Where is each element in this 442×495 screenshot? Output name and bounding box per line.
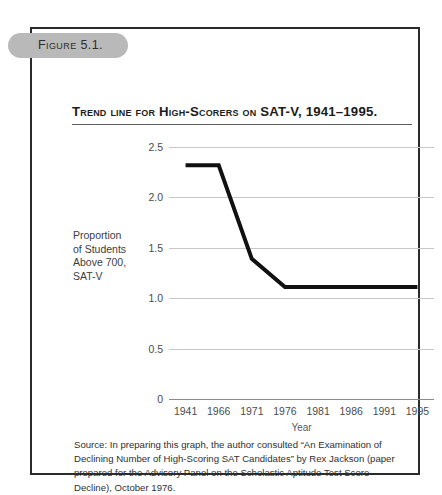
y-tick-label-0: 0 <box>157 393 163 405</box>
trend-line-series <box>169 147 434 399</box>
y-axis-title-line-4: SAT-V <box>73 270 165 284</box>
title-underline-rule <box>72 124 412 125</box>
trend-line-path <box>186 165 418 287</box>
figure-number-label: Figure 5.1. <box>38 38 103 52</box>
y-tick-label-1.5: 1.5 <box>148 242 163 254</box>
y-axis-title: Proportion of Students Above 700, SAT-V <box>73 229 165 283</box>
figure-frame: Trend line for High-Scorers on SAT-V, 19… <box>30 27 420 475</box>
y-tick-label-1.0: 1.0 <box>148 292 163 304</box>
x-tick-label-1976: 1976 <box>273 405 296 417</box>
x-tick-label-1986: 1986 <box>340 405 363 417</box>
x-tick-label-1941: 1941 <box>174 405 197 417</box>
y-axis-title-line-3: Above 700, <box>73 256 165 270</box>
x-tick-label-1966: 1966 <box>207 405 230 417</box>
x-tick-label-1971: 1971 <box>240 405 263 417</box>
x-tick-label-1981: 1981 <box>306 405 329 417</box>
x-tick-label-1995: 1995 <box>406 405 429 417</box>
y-tick-label-0.5: 0.5 <box>148 343 163 355</box>
figure-title: Trend line for High-Scorers on SAT-V, 19… <box>72 104 408 119</box>
source-note: Source: In preparing this graph, the aut… <box>74 438 408 495</box>
chart-plot-area: 2.52.01.51.00.50 19411966197119761981198… <box>169 147 434 399</box>
x-tick-label-1991: 1991 <box>373 405 396 417</box>
x-axis-title: Year <box>291 422 311 433</box>
y-tick-label-2.5: 2.5 <box>148 141 163 153</box>
y-axis-title-line-1: Proportion <box>73 229 165 243</box>
y-tick-label-2.0: 2.0 <box>148 191 163 203</box>
gridline-0 <box>169 399 434 400</box>
